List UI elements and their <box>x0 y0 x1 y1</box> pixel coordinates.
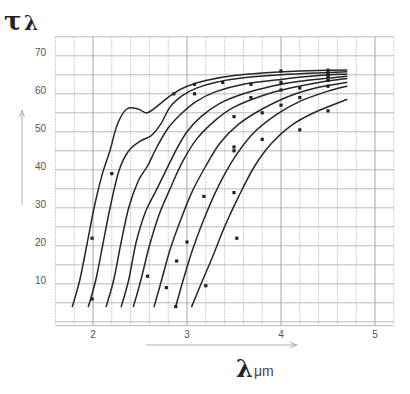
y-tick-label: 30 <box>35 199 47 210</box>
y-axis-subscript: λ <box>24 11 38 35</box>
data-point-marker <box>90 237 93 240</box>
data-point-marker <box>193 92 196 95</box>
y-tick-label: 20 <box>35 237 47 248</box>
y-axis-ticks: 10203040506070 <box>35 47 47 286</box>
data-point-marker <box>165 286 168 289</box>
x-axis-label: λ μm <box>236 354 274 383</box>
data-point-marker <box>235 237 238 240</box>
curve-line <box>176 86 347 306</box>
y-axis-symbol: τ <box>4 6 22 36</box>
data-point-marker <box>175 259 178 262</box>
data-point-marker <box>279 88 282 91</box>
data-point-marker <box>298 87 301 90</box>
y-tick-label: 50 <box>35 123 47 134</box>
chart: 10203040506070 2345 τ λ λ μm <box>0 0 410 394</box>
data-point-marker <box>279 69 282 72</box>
data-point-marker <box>326 85 329 88</box>
data-point-marker <box>261 111 264 114</box>
y-tick-label: 40 <box>35 161 47 172</box>
x-tick-label: 3 <box>184 329 190 340</box>
curves <box>72 70 347 307</box>
y-tick-label: 10 <box>35 275 47 286</box>
x-axis-symbol: λ <box>236 354 253 383</box>
data-point-marker <box>110 172 113 175</box>
data-point-marker <box>193 83 196 86</box>
x-tick-label: 5 <box>372 329 378 340</box>
data-point-marker <box>185 240 188 243</box>
x-tick-label: 4 <box>278 329 284 340</box>
y-tick-label: 70 <box>35 47 47 58</box>
data-point-marker <box>204 284 207 287</box>
data-point-marker <box>146 275 149 278</box>
data-point-marker <box>232 145 235 148</box>
data-point-marker <box>261 138 264 141</box>
data-point-marker <box>249 96 252 99</box>
y-axis-label: τ λ <box>4 6 38 36</box>
data-point-marker <box>279 81 282 84</box>
curve-line <box>154 82 347 306</box>
data-point-marker <box>232 149 235 152</box>
x-tick-label: 2 <box>90 329 96 340</box>
data-point-marker <box>298 128 301 131</box>
data-point-marker <box>90 297 93 300</box>
y-axis-arrow-icon <box>20 110 25 205</box>
data-point-marker <box>249 83 252 86</box>
x-axis-ticks: 2345 <box>90 329 378 340</box>
data-point-marker <box>279 104 282 107</box>
x-axis-arrow-icon <box>146 343 297 348</box>
x-axis-unit: μm <box>254 363 274 379</box>
data-point-marker <box>221 81 224 84</box>
curve-line <box>72 70 347 307</box>
data-point-marker <box>326 79 329 82</box>
data-point-marker <box>326 109 329 112</box>
data-point-marker <box>172 92 175 95</box>
data-point-marker <box>298 96 301 99</box>
data-point-marker <box>326 75 329 78</box>
data-point-marker <box>232 115 235 118</box>
data-point-marker <box>174 305 177 308</box>
data-point-marker <box>232 191 235 194</box>
y-tick-label: 60 <box>35 85 47 96</box>
curve-line <box>192 100 347 307</box>
data-point-marker <box>202 195 205 198</box>
